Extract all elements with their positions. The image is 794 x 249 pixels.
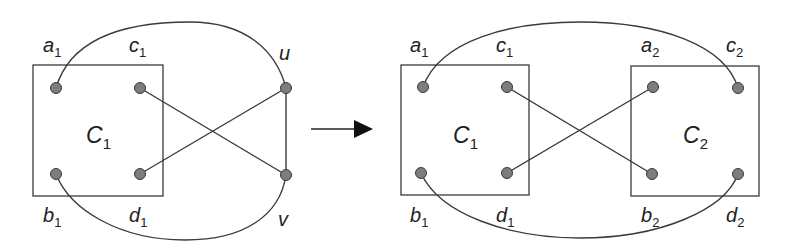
node-c1-right <box>502 82 513 93</box>
node-a2 <box>648 82 659 93</box>
label-component-c2: C2 <box>683 122 708 152</box>
node-d1-left <box>135 169 146 180</box>
edge-b1-d2 <box>421 173 738 238</box>
label-c1-left: c1 <box>129 34 146 60</box>
edge-a1-u <box>56 22 286 88</box>
label-u: u <box>279 42 290 64</box>
graph-transformation-diagram: a1 c1 b1 d1 u v C1 a1 c1 b1 d1 a2 <box>0 0 794 249</box>
node-b1-left <box>51 169 62 180</box>
label-c1-right: c1 <box>496 34 513 60</box>
edge-b1-v <box>56 174 286 240</box>
left-graph: a1 c1 b1 d1 u v C1 <box>33 22 292 240</box>
label-b2: b2 <box>641 204 659 230</box>
node-c2 <box>733 83 744 94</box>
label-v: v <box>278 208 289 230</box>
label-a2: a2 <box>641 34 659 60</box>
node-a1-right <box>418 82 429 93</box>
node-a1-left <box>51 83 62 94</box>
label-c2: c2 <box>726 34 743 60</box>
label-a1-right: a1 <box>410 34 428 60</box>
label-component-c1-right: C1 <box>453 122 478 152</box>
right-graph: a1 c1 b1 d1 a2 c2 b2 d2 C1 C2 <box>401 22 759 238</box>
node-u <box>281 83 292 94</box>
label-component-c1-left: C1 <box>86 122 111 152</box>
edge-a1-c2 <box>423 22 738 88</box>
node-c1-left <box>135 83 146 94</box>
label-a1-left: a1 <box>43 34 61 60</box>
arrow-right-icon <box>311 120 373 138</box>
node-b2 <box>647 169 658 180</box>
node-v <box>281 170 292 181</box>
label-b1-left: b1 <box>43 204 61 230</box>
node-b1-right <box>416 168 427 179</box>
label-d2: d2 <box>726 204 744 230</box>
label-d1-right: d1 <box>496 204 514 230</box>
node-d2 <box>733 169 744 180</box>
node-d1-right <box>502 168 513 179</box>
label-b1-right: b1 <box>410 204 428 230</box>
label-d1-left: d1 <box>129 204 147 230</box>
